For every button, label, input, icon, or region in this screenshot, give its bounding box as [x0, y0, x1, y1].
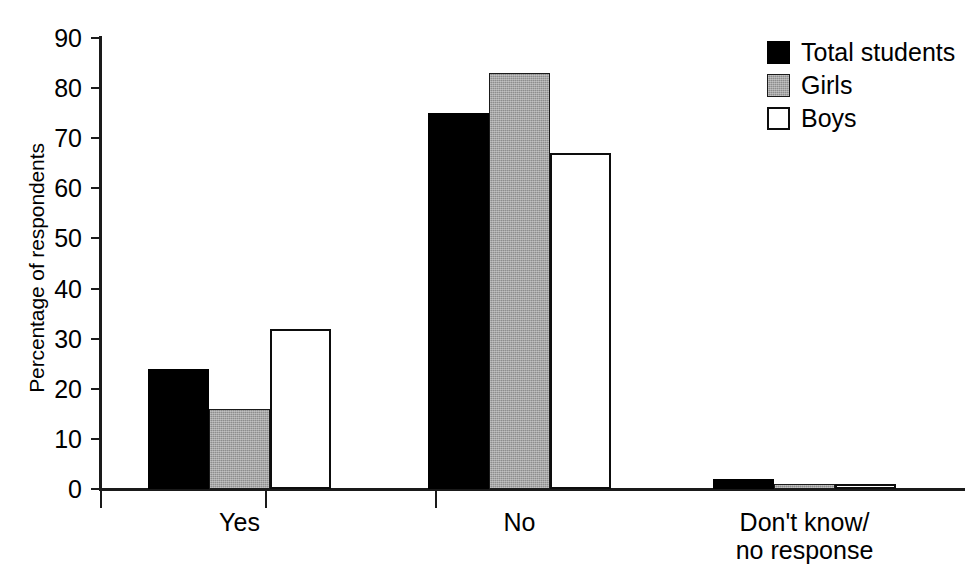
y-axis-tick-label: 40 — [54, 276, 82, 301]
white-square-icon — [767, 107, 790, 130]
bar-total — [713, 479, 774, 489]
black-square-icon — [767, 41, 790, 64]
legend-label: Girls — [801, 73, 852, 98]
y-axis-tick-label: 0 — [68, 477, 82, 502]
bar-total — [148, 369, 209, 489]
bar-girls — [209, 409, 270, 489]
y-axis-tick-label: 60 — [54, 176, 82, 201]
y-axis-title: Percentage of respondents — [25, 88, 49, 448]
y-axis-tick: 20 — [91, 388, 100, 390]
y-axis-tick-label: 30 — [54, 326, 82, 351]
legend-item-total-students: Total students — [767, 36, 955, 69]
x-axis-separator — [265, 491, 267, 508]
y-axis-tick: 90 — [91, 37, 100, 39]
bar-boys — [550, 153, 611, 489]
bar-boys — [270, 329, 331, 489]
x-axis-category-label: No — [370, 508, 670, 536]
legend-item-boys: Boys — [767, 102, 955, 135]
x-axis-separator — [100, 491, 102, 508]
y-axis-tick-label: 70 — [54, 126, 82, 151]
bar-girls — [489, 73, 550, 489]
bar-girls — [774, 484, 835, 489]
x-axis-category-label: Yes — [90, 508, 390, 536]
y-axis-tick: 0 — [91, 488, 100, 490]
y-axis-tick-label: 90 — [54, 26, 82, 51]
chart-legend: Total students Girls Boys — [767, 36, 955, 135]
gray-square-icon — [767, 74, 790, 97]
chart-title-cropped — [0, 0, 975, 1]
y-axis-tick: 60 — [91, 187, 100, 189]
y-axis-tick: 80 — [91, 87, 100, 89]
y-axis-tick: 10 — [91, 438, 100, 440]
legend-item-girls: Girls — [767, 69, 955, 102]
bar-boys — [835, 484, 896, 489]
legend-label: Total students — [801, 40, 955, 65]
y-axis-tick: 50 — [91, 237, 100, 239]
y-axis-tick: 30 — [91, 338, 100, 340]
x-axis-separator — [435, 491, 437, 508]
y-axis-tick-label: 80 — [54, 76, 82, 101]
legend-label: Boys — [801, 106, 857, 131]
bar-chart-figure: Percentage of respondents 01020304050607… — [0, 0, 975, 564]
y-axis-tick-label: 20 — [54, 376, 82, 401]
y-axis-tick: 70 — [91, 137, 100, 139]
x-axis-category-label: Don't know/ no response — [655, 508, 955, 564]
y-axis-tick: 40 — [91, 288, 100, 290]
y-axis-tick-label: 10 — [54, 426, 82, 451]
bar-total — [428, 113, 489, 489]
y-axis-line — [99, 36, 102, 491]
y-axis-tick-label: 50 — [54, 226, 82, 251]
